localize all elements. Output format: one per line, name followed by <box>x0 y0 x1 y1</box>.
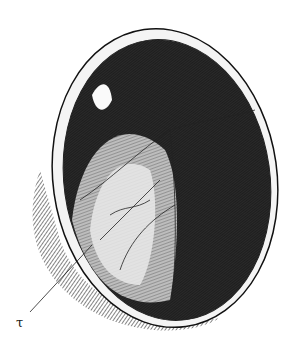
figure-label: τ <box>16 315 23 330</box>
skull-cap-engraving: τ <box>0 0 289 343</box>
